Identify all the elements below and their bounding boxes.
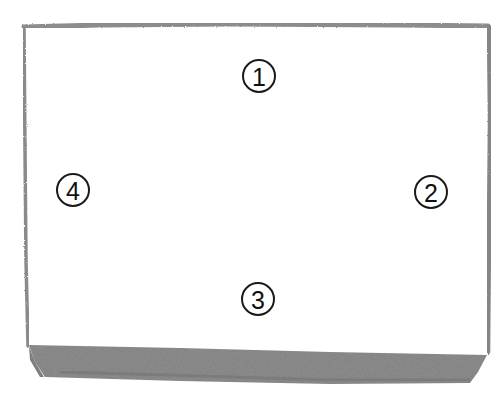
- box-top-edge: [24, 24, 488, 27]
- label-circle-1: 1: [242, 59, 276, 93]
- label-number: 2: [424, 181, 438, 206]
- label-number: 1: [252, 65, 266, 90]
- box-right-edge: [488, 27, 490, 352]
- box-left-edge: [24, 28, 28, 346]
- label-number: 4: [66, 179, 80, 204]
- label-circle-4: 4: [56, 173, 90, 207]
- label-circle-3: 3: [241, 282, 275, 316]
- label-number: 3: [251, 288, 265, 313]
- label-circle-2: 2: [414, 175, 448, 209]
